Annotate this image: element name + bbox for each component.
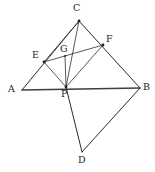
point-label-C: C — [73, 3, 80, 13]
vertex-dot-F — [102, 44, 105, 47]
segment-PG — [65, 56, 66, 87]
vertex-dot-G — [64, 55, 66, 57]
segment-PF — [66, 45, 103, 87]
point-label-F: F — [106, 34, 113, 44]
point-label-P: P — [61, 89, 67, 99]
segment-EC — [44, 21, 79, 62]
vertex-dot-E — [43, 61, 46, 64]
geometry-canvas — [0, 0, 155, 172]
point-label-G: G — [60, 44, 68, 54]
segment-AB — [22, 88, 140, 90]
geometry-figure: ABCDEFGP — [0, 0, 155, 172]
point-label-E: E — [32, 50, 39, 60]
segment-CB — [79, 21, 140, 88]
vertex-dot-C — [78, 20, 81, 23]
point-label-B: B — [143, 82, 150, 92]
segment-BD — [82, 88, 140, 152]
segment-DP — [66, 87, 82, 152]
point-label-A: A — [8, 84, 15, 94]
segment-layer — [22, 21, 140, 152]
point-label-D: D — [78, 155, 86, 165]
segment-PE — [44, 62, 66, 87]
